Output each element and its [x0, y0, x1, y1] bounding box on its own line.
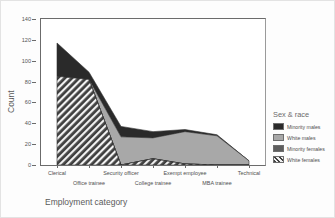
legend-label: White males	[287, 135, 316, 141]
legend-label: White females	[287, 157, 320, 163]
x-tick-label: MBA trainee	[202, 180, 231, 186]
chart-figure: 020406080100120140 Count ClericalOffice …	[0, 0, 335, 218]
y-tick	[32, 123, 36, 124]
legend: Sex & race Minority malesWhite malesMino…	[273, 110, 335, 167]
x-tick-label: Security officer	[103, 170, 139, 176]
x-tick-label: Clerical	[48, 170, 66, 176]
y-tick-label: 140	[22, 16, 31, 22]
x-tick-label: College trainee	[135, 180, 171, 186]
legend-title: Sex & race	[273, 110, 335, 119]
legend-item[interactable]: Minority females	[273, 145, 335, 152]
y-tick	[32, 102, 36, 103]
legend-swatch	[273, 145, 284, 152]
plot-area	[41, 19, 265, 165]
legend-entries: Minority malesWhite malesMinority female…	[273, 123, 335, 163]
y-tick-label: 100	[22, 58, 31, 64]
x-tick	[121, 165, 122, 168]
y-tick-label: 60	[25, 99, 31, 105]
x-tick	[89, 165, 90, 168]
series-layer	[57, 43, 249, 165]
legend-item[interactable]: White females	[273, 156, 335, 163]
legend-label: Minority females	[287, 146, 325, 152]
area-chart-svg	[41, 19, 265, 165]
legend-item[interactable]: White males	[273, 134, 335, 141]
legend-item[interactable]: Minority males	[273, 123, 335, 130]
y-tick-label: 120	[22, 37, 31, 43]
x-tick-label: Technical	[238, 170, 260, 176]
x-tick	[57, 165, 58, 168]
x-tick-label: Exempt employee	[163, 170, 206, 176]
y-tick	[32, 82, 36, 83]
y-tick	[32, 61, 36, 62]
legend-swatch	[273, 134, 284, 141]
x-tick-label: Office trainee	[73, 180, 105, 186]
x-tick	[249, 165, 250, 168]
legend-swatch	[273, 156, 284, 163]
y-axis-title: Count	[6, 90, 16, 113]
x-tick	[217, 165, 218, 168]
y-tick-label: 20	[25, 141, 31, 147]
y-tick	[32, 19, 36, 20]
y-tick-label: 40	[25, 120, 31, 126]
y-tick	[32, 144, 36, 145]
x-tick	[153, 165, 154, 168]
legend-label: Minority males	[287, 124, 320, 130]
y-tick-label: 80	[25, 79, 31, 85]
x-axis-title: Employment category	[45, 197, 127, 207]
y-tick	[32, 40, 36, 41]
x-tick	[185, 165, 186, 168]
y-tick	[32, 165, 36, 166]
x-axis-labels: ClericalOffice traineeSecurity officerCo…	[1, 168, 335, 194]
legend-swatch	[273, 123, 284, 130]
